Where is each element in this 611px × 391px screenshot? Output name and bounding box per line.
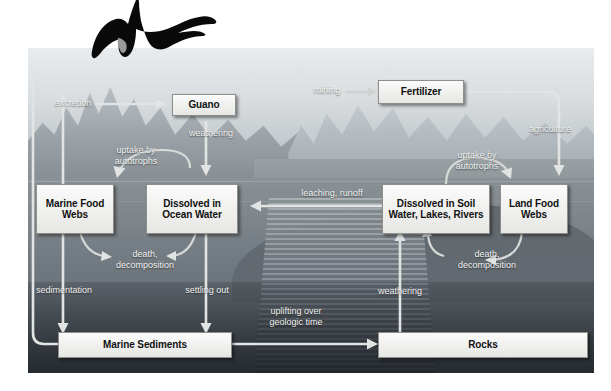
flow-label-uptake-land: uptake by autotrophs bbox=[444, 150, 510, 171]
box-dissolved-ocean-water-label: Dissolved in Ocean Water bbox=[147, 198, 237, 221]
flow-label-weathering-rocks: weathering bbox=[368, 286, 432, 297]
box-fertilizer-label: Fertilizer bbox=[401, 86, 442, 98]
flow-label-uptake-marine: uptake by autotrophs bbox=[104, 145, 168, 166]
box-dissolved-soil-water-label: Dissolved in Soil Water, Lakes, Rivers bbox=[383, 198, 489, 221]
box-land-food-webs-label: Land Food Webs bbox=[501, 198, 567, 221]
box-rocks[interactable]: Rocks bbox=[378, 332, 588, 358]
box-dissolved-ocean-water[interactable]: Dissolved in Ocean Water bbox=[146, 184, 238, 234]
box-dissolved-soil-water[interactable]: Dissolved in Soil Water, Lakes, Rivers bbox=[382, 184, 490, 234]
box-guano-label: Guano bbox=[188, 99, 219, 111]
box-marine-food-webs[interactable]: Marine Food Webs bbox=[36, 184, 114, 234]
flow-label-settling-out: settling out bbox=[176, 285, 238, 296]
flow-label-death-marine: death, decomposition bbox=[108, 249, 182, 270]
foreground-rock bbox=[28, 282, 594, 373]
box-guano[interactable]: Guano bbox=[172, 94, 236, 116]
box-rocks-label: Rocks bbox=[468, 339, 498, 351]
flow-label-mining: mining bbox=[306, 85, 348, 96]
flow-label-agriculture: agriculture bbox=[518, 124, 582, 135]
box-marine-food-webs-label: Marine Food Webs bbox=[37, 198, 113, 221]
box-fertilizer[interactable]: Fertilizer bbox=[378, 80, 464, 104]
frigatebird-icon bbox=[70, 0, 230, 68]
box-land-food-webs[interactable]: Land Food Webs bbox=[500, 184, 568, 234]
flow-label-sedimentation: sedimentation bbox=[24, 285, 104, 296]
flow-label-weathering-guano: weathering bbox=[180, 128, 242, 139]
phosphorus-cycle-figure: Guano Fertilizer Marine Food Webs Dissol… bbox=[0, 0, 611, 391]
flow-label-excretion: excretion bbox=[40, 98, 106, 109]
flow-label-leaching-runoff: leaching, runoff bbox=[286, 188, 378, 199]
box-marine-sediments[interactable]: Marine Sediments bbox=[58, 332, 232, 358]
flow-label-uplifting: uplifting over geologic time bbox=[256, 306, 336, 327]
flow-label-death-land: death, decomposition bbox=[448, 249, 526, 270]
box-marine-sediments-label: Marine Sediments bbox=[103, 339, 187, 351]
